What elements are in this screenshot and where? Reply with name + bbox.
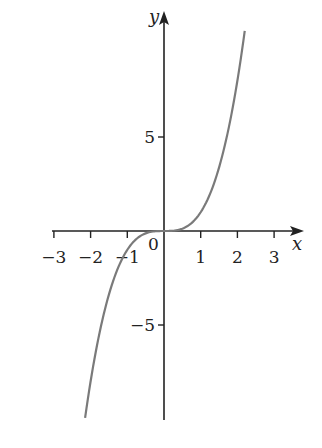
x-tick-label: 1	[195, 247, 206, 267]
x-axis-label: x	[292, 233, 302, 254]
x-tick-label: 3	[269, 247, 280, 267]
axes	[52, 11, 304, 420]
y-axis-label: y	[148, 6, 160, 27]
cubic-function-plot: −3−2−11235−5 x y 0	[0, 0, 322, 448]
x-tick-label: −2	[78, 247, 103, 267]
x-tick-label: −3	[41, 247, 66, 267]
origin-label: 0	[148, 234, 159, 254]
y-tick-label: 5	[144, 127, 155, 147]
cubic-curve	[85, 31, 245, 418]
y-tick-label: −5	[130, 315, 155, 335]
x-tick-label: 2	[232, 247, 243, 267]
